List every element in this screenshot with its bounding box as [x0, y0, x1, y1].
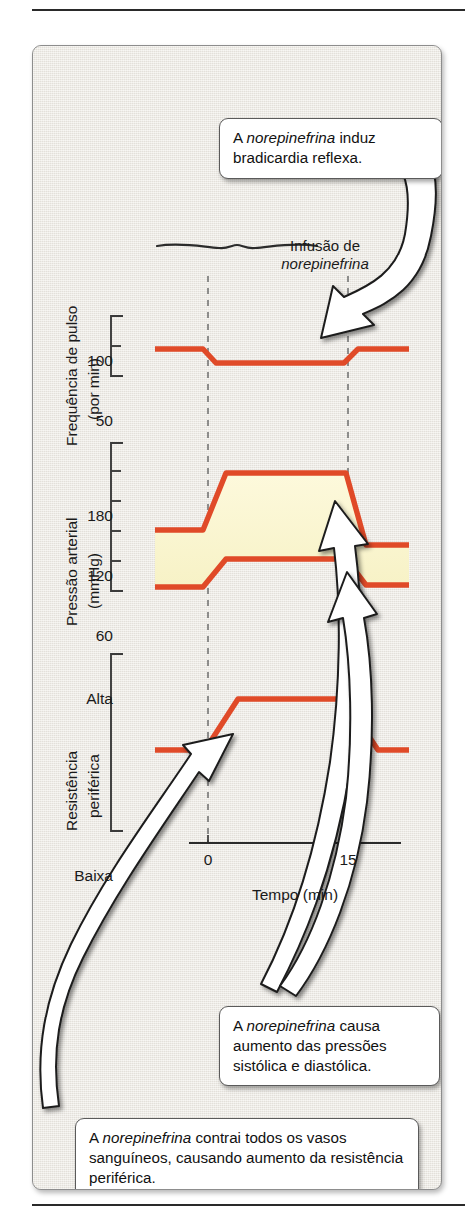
resistance-tick-baixa: Baixa	[49, 867, 113, 885]
infusion-line1: Infusão de	[290, 237, 360, 254]
figure-panel: Infusão de norepinefrina 100 50 Frequênc…	[32, 45, 442, 1190]
callout-resistance-drug: norepinefrina	[103, 1129, 192, 1146]
infusion-label: Infusão de norepinefrina	[237, 237, 413, 274]
pulse-axis-title-line2: (por min)	[85, 358, 103, 420]
x-tick-label-15: 15	[327, 851, 369, 869]
x-axis-title: Tempo (min)	[189, 886, 401, 904]
resistance-axis-title-line2: periférica	[85, 754, 103, 818]
callout-bradycardia: A norepinefrina induz bradicardia reflex…	[219, 118, 442, 179]
pressure-axis-title-line2: (mmHg)	[85, 553, 103, 609]
callout-resistance-pre: A	[89, 1129, 103, 1146]
pressure-tick-60: 60	[55, 627, 113, 645]
callout-bradycardia-pre: A	[233, 129, 247, 146]
resistance-axis-title-line1: Resistência	[63, 751, 81, 831]
top-divider-rule	[32, 9, 465, 11]
callout-pressure-drug: norepinefrina	[247, 1017, 336, 1034]
pulse-trace	[155, 349, 409, 363]
resistance-tick-alta: Alta	[49, 690, 113, 708]
pressure-axis-title-line1: Pressão arterial	[63, 517, 81, 626]
callout-bradycardia-drug: norepinefrina	[247, 129, 336, 146]
infusion-line2: norepinefrina	[281, 255, 369, 272]
pulse-axis-title-line1: Frequência de pulso	[63, 306, 81, 446]
callout-pressure-pre: A	[233, 1017, 247, 1034]
callout-resistance: A norepinefrina contrai todos os vasos s…	[75, 1118, 419, 1190]
x-tick-label-0: 0	[188, 851, 228, 869]
callout-pressure: A norepinefrina causa aumento das pressõ…	[219, 1006, 440, 1086]
bottom-divider-rule	[32, 1204, 465, 1206]
resistance-axis-bracket	[111, 654, 123, 831]
